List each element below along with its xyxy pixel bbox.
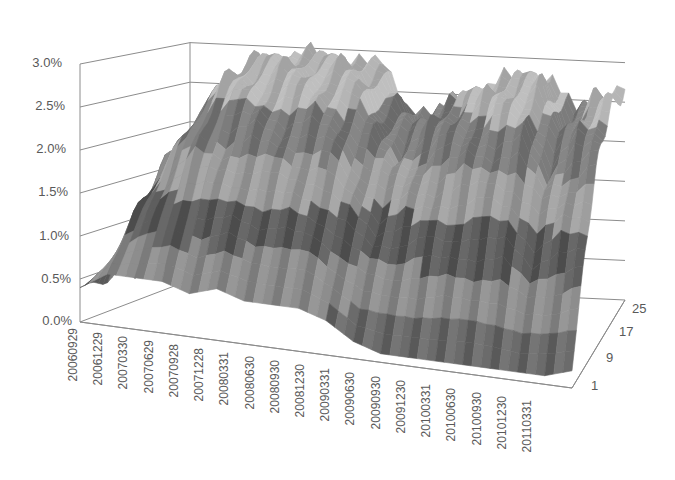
gridline	[80, 82, 190, 107]
y-tick-label: 3.0%	[6, 55, 62, 70]
surface-mesh	[80, 42, 625, 376]
y-tick-label: 2.0%	[10, 141, 66, 156]
x-tick-label: 20110331	[520, 400, 534, 470]
x-tick-label: 20060929	[66, 328, 80, 398]
y-tick-label: 1.0%	[13, 228, 69, 243]
y-tick-label: 0.5%	[15, 271, 71, 286]
surface-chart: 3.0% 2.5% 2.0% 1.5% 1.0% 0.5% 0.0% 20060…	[0, 0, 675, 480]
x-tick-label: 20090930	[369, 376, 383, 446]
x-tick-label: 20100331	[419, 384, 433, 454]
x-tick-label: 20090630	[343, 372, 357, 442]
x-tick-label: 20101230	[495, 396, 509, 466]
y-tick-label: 1.5%	[12, 184, 68, 199]
gridline	[80, 43, 190, 64]
x-tick-label: 20091230	[394, 380, 408, 450]
x-tick-label: 20080630	[243, 356, 257, 426]
x-tick-label: 20080930	[268, 360, 282, 430]
gridline	[572, 300, 625, 388]
y-tick-label: 0.0%	[16, 313, 72, 328]
x-tick-label: 20081230	[293, 364, 307, 434]
x-tick-label: 20071228	[192, 348, 206, 418]
x-tick-label: 20090331	[318, 368, 332, 438]
x-tick-label: 20061229	[91, 332, 105, 402]
x-tick-label: 20070330	[116, 336, 130, 406]
x-tick-label: 20100630	[444, 388, 458, 458]
x-tick-label: 20070629	[142, 340, 156, 410]
gridline	[80, 122, 190, 150]
depth-tick-label: 25	[632, 301, 646, 316]
chart-plot-area	[0, 0, 675, 480]
depth-tick-label: 9	[606, 350, 613, 365]
depth-tick-label: 17	[619, 324, 633, 339]
x-tick-label: 20100930	[470, 392, 484, 462]
depth-tick-label: 1	[591, 378, 598, 393]
y-tick-label: 2.5%	[9, 98, 65, 113]
x-tick-label: 20080331	[217, 352, 231, 422]
x-tick-label: 20070928	[167, 344, 181, 414]
